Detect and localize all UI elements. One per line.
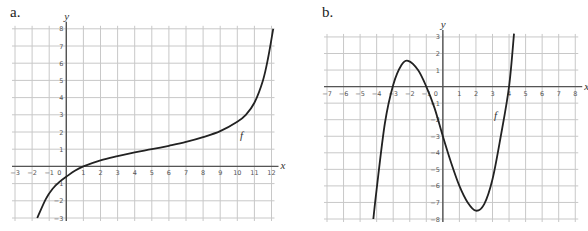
- y-tick-label: 1: [436, 67, 440, 75]
- x-axis-label: x: [583, 80, 588, 92]
- x-tick-label: −5: [355, 90, 365, 98]
- y-tick-label: −7: [430, 199, 440, 207]
- y-tick-label: 3: [436, 33, 440, 41]
- x-tick-label: 5: [524, 90, 528, 98]
- y-tick-label: −3: [430, 133, 440, 141]
- y-tick-label: −8: [430, 216, 440, 224]
- x-tick-label: 3: [490, 90, 494, 98]
- y-tick-label: −5: [430, 166, 440, 174]
- y-tick-label: 2: [436, 50, 440, 58]
- x-tick-label: −7: [322, 90, 332, 98]
- x-tick-label: 0: [434, 90, 438, 98]
- grid: [324, 34, 578, 222]
- y-tick-label: −4: [430, 149, 440, 157]
- x-tick-label: 1: [457, 90, 461, 98]
- x-tick-label: 2: [474, 90, 478, 98]
- chart-b: −7−6−5−4−3−2−1012345678−8−7−6−5−4−3−2−11…: [0, 0, 588, 231]
- x-tick-label: −4: [372, 90, 382, 98]
- y-tick-label: −6: [430, 182, 440, 190]
- x-tick-label: −2: [405, 90, 415, 98]
- x-tick-label: 7: [557, 90, 561, 98]
- x-tick-label: 8: [573, 90, 577, 98]
- x-tick-label: 6: [540, 90, 544, 98]
- x-tick-label: −6: [339, 90, 349, 98]
- y-axis-label: y: [440, 18, 446, 30]
